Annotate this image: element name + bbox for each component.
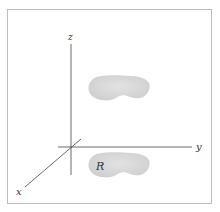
x-axis-label: x <box>16 186 22 197</box>
x-axis <box>25 139 81 187</box>
y-axis-label: y <box>195 141 202 152</box>
diagram-canvas: z y x R <box>0 0 220 212</box>
base-region-label: R <box>95 160 104 173</box>
z-axis-label: z <box>67 32 73 42</box>
upper-region-shape <box>88 75 149 100</box>
